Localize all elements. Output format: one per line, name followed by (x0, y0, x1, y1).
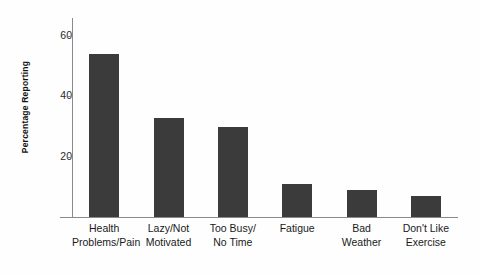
bar (218, 127, 248, 217)
bar-chart: Percentage Reporting 204060 HealthProble… (0, 0, 480, 276)
bar (282, 184, 312, 217)
x-category-label: Fatigue (265, 222, 329, 236)
x-axis-line (60, 217, 458, 218)
x-category-label-line: Weather (329, 236, 393, 250)
x-category-label-line: Bad (329, 222, 393, 236)
bar (411, 196, 441, 217)
x-category-label: BadWeather (329, 222, 393, 249)
x-category-label-line: Problems/Pain (72, 236, 136, 250)
y-axis-title: Percentage Reporting (18, 0, 32, 222)
y-tick-20: 20 (38, 151, 72, 162)
bars-layer (72, 18, 458, 217)
bar (347, 190, 377, 217)
y-tick-40: 40 (38, 90, 72, 101)
x-category-label-line: Don't Like (394, 222, 458, 236)
x-category-label: Don't LikeExercise (394, 222, 458, 249)
x-category-label-line: Health (72, 222, 136, 236)
y-tick-60: 60 (38, 30, 72, 41)
x-category-label-line: Exercise (394, 236, 458, 250)
x-axis-category-labels: HealthProblems/PainLazy/NotMotivatedToo … (72, 222, 458, 272)
bar (154, 118, 184, 218)
x-category-label-line: Fatigue (265, 222, 329, 236)
x-category-label: Lazy/NotMotivated (136, 222, 200, 249)
x-category-label-line: Motivated (136, 236, 200, 250)
x-category-label-line: Lazy/Not (136, 222, 200, 236)
x-category-label: HealthProblems/Pain (72, 222, 136, 249)
x-category-label: Too Busy/No Time (201, 222, 265, 249)
x-category-label-line: Too Busy/ (201, 222, 265, 236)
x-category-label-line: No Time (201, 236, 265, 250)
bar (89, 54, 119, 217)
